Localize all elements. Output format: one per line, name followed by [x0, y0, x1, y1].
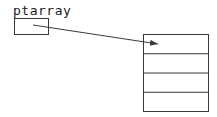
- pointer-arrow: [33, 25, 158, 44]
- array-box: [144, 35, 209, 112]
- pointer-label: ptarray: [13, 3, 71, 18]
- pointer-array-diagram: ptarray: [0, 0, 217, 117]
